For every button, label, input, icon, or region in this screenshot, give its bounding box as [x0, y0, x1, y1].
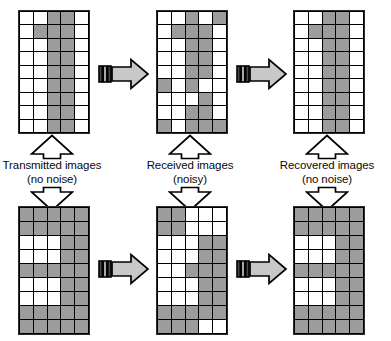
- pixel-cell: [199, 278, 212, 291]
- pixel-cell: [20, 25, 33, 37]
- pixel-cell: [48, 208, 61, 221]
- pixel-cell: [75, 208, 88, 221]
- pixel-cell: [61, 39, 74, 51]
- pixel-cell: [61, 264, 74, 277]
- pixel-cell: [336, 25, 349, 37]
- pixel-cell: [75, 106, 88, 118]
- pixel-cell: [48, 306, 61, 319]
- pixel-cell: [350, 79, 363, 91]
- pixel-cell: [61, 222, 74, 235]
- pixel-cell: [34, 306, 47, 319]
- pixel-cell: [309, 93, 322, 105]
- pixel-cell: [48, 120, 61, 132]
- pixel-cell: [323, 250, 336, 263]
- pixel-cell: [199, 264, 212, 277]
- pixel-cell: [199, 52, 212, 64]
- pixel-cell: [350, 25, 363, 37]
- caption-recovered-line1: Recovered images: [280, 159, 374, 171]
- pixel-cell: [75, 292, 88, 305]
- pixel-cell: [199, 39, 212, 51]
- pixel-cell: [350, 278, 363, 291]
- pixel-cell: [309, 120, 322, 132]
- pixel-cell: [186, 222, 199, 235]
- pixel-cell: [48, 25, 61, 37]
- pixel-cell: [213, 39, 226, 51]
- pixel-cell: [61, 93, 74, 105]
- pixel-cell: [61, 278, 74, 291]
- pixel-cell: [295, 93, 308, 105]
- pixel-cell: [323, 25, 336, 37]
- caption-received: Received images (noisy): [115, 159, 265, 186]
- pixel-cell: [48, 79, 61, 91]
- caption-pointer-arrow-right: [305, 134, 349, 160]
- pixel-cell: [199, 79, 212, 91]
- pixel-cell: [295, 106, 308, 118]
- caption-transmitted: Transmitted images (no noise): [0, 159, 127, 186]
- pixel-cell: [34, 12, 47, 24]
- pixel-cell: [336, 278, 349, 291]
- pixel-cell: [350, 106, 363, 118]
- pixel-cell: [213, 264, 226, 277]
- pixel-cell: [61, 79, 74, 91]
- pixel-cell: [20, 208, 33, 221]
- pixel-cell: [309, 39, 322, 51]
- pixel-cell: [336, 264, 349, 277]
- pixel-cell: [20, 79, 33, 91]
- pixel-cell: [309, 320, 322, 333]
- pixel-cell: [213, 12, 226, 24]
- pixel-cell: [34, 79, 47, 91]
- pixel-cell: [323, 236, 336, 249]
- pixel-cell: [172, 120, 185, 132]
- transmission-arrow-bottom-right: [236, 252, 288, 286]
- pixel-cell: [199, 25, 212, 37]
- pixel-cell: [20, 278, 33, 291]
- pixel-cell: [158, 12, 171, 24]
- pixel-cell: [350, 306, 363, 319]
- pixel-cell: [336, 222, 349, 235]
- pixel-cell: [34, 292, 47, 305]
- pixel-cell: [336, 52, 349, 64]
- pixel-cell: [336, 250, 349, 263]
- pixel-cell: [186, 306, 199, 319]
- pixel-cell: [172, 25, 185, 37]
- pixel-cell: [186, 264, 199, 277]
- pixel-cell: [158, 66, 171, 78]
- pixel-cell: [158, 120, 171, 132]
- pixel-cell: [309, 25, 322, 37]
- pixel-cell: [199, 222, 212, 235]
- pixel-cell: [34, 320, 47, 333]
- pixel-cell: [336, 39, 349, 51]
- pixel-cell: [158, 264, 171, 277]
- pixel-cell: [350, 52, 363, 64]
- pixel-cell: [350, 264, 363, 277]
- pixel-cell: [158, 52, 171, 64]
- pixel-cell: [75, 222, 88, 235]
- caption-received-line1: Received images: [147, 159, 234, 171]
- pixel-cell: [75, 236, 88, 249]
- pixel-cell: [75, 79, 88, 91]
- pixel-cell: [295, 250, 308, 263]
- pixel-cell: [350, 66, 363, 78]
- pixel-cell: [323, 292, 336, 305]
- pixel-cell: [323, 12, 336, 24]
- pixel-cell: [34, 52, 47, 64]
- pixel-cell: [48, 278, 61, 291]
- pixel-cell: [172, 250, 185, 263]
- pixel-cell: [323, 39, 336, 51]
- pixel-cell: [336, 66, 349, 78]
- pixel-cell: [213, 278, 226, 291]
- pixel-cell: [75, 25, 88, 37]
- pixel-cell: [295, 278, 308, 291]
- pixel-cell: [48, 66, 61, 78]
- pixel-cell: [48, 292, 61, 305]
- pixel-cell: [295, 120, 308, 132]
- pixel-cell: [295, 25, 308, 37]
- pixel-cell: [20, 12, 33, 24]
- pixel-cell: [61, 208, 74, 221]
- pixel-cell: [48, 236, 61, 249]
- image-grid-received-top: [156, 10, 228, 134]
- pixel-cell: [309, 236, 322, 249]
- pixel-cell: [75, 66, 88, 78]
- transmission-arrow-top-left: [98, 57, 150, 91]
- pixel-cell: [295, 79, 308, 91]
